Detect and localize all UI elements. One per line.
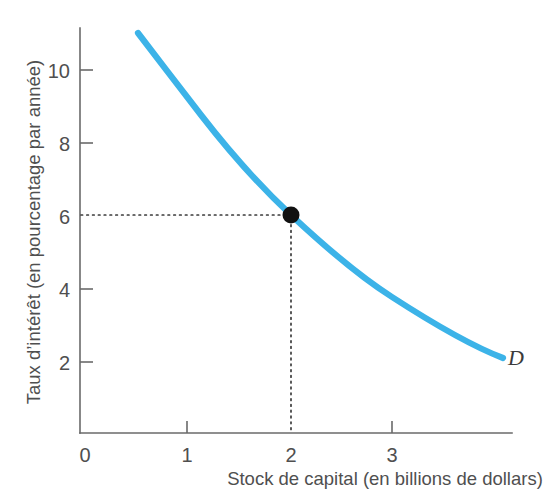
y-tick-label-6: 6 [59,206,70,228]
x-tick-label-2: 2 [285,444,296,466]
x-axis-title: Stock de capital (en billions de dollars… [227,468,543,489]
y-axis-title: Taux d’intérêt (en pourcentage par année… [23,60,44,405]
y-tick-label-10: 10 [48,60,70,82]
equilibrium-point-marker[interactable] [283,207,300,224]
demand-curve-line [138,33,503,358]
demand-curve-label: D [507,345,524,370]
y-tick-label-2: 2 [59,352,70,374]
x-tick-label-0: 0 [79,444,90,466]
y-tick-label-8: 8 [59,133,70,155]
x-tick-label-3: 3 [386,444,397,466]
y-tick-label-4: 4 [59,279,70,301]
chart-canvas: 10 8 6 4 2 0 1 2 3 D Stock de capital (e… [0,0,555,500]
demand-for-capital-chart: 10 8 6 4 2 0 1 2 3 D Stock de capital (e… [0,0,555,500]
x-tick-label-1: 1 [181,444,192,466]
